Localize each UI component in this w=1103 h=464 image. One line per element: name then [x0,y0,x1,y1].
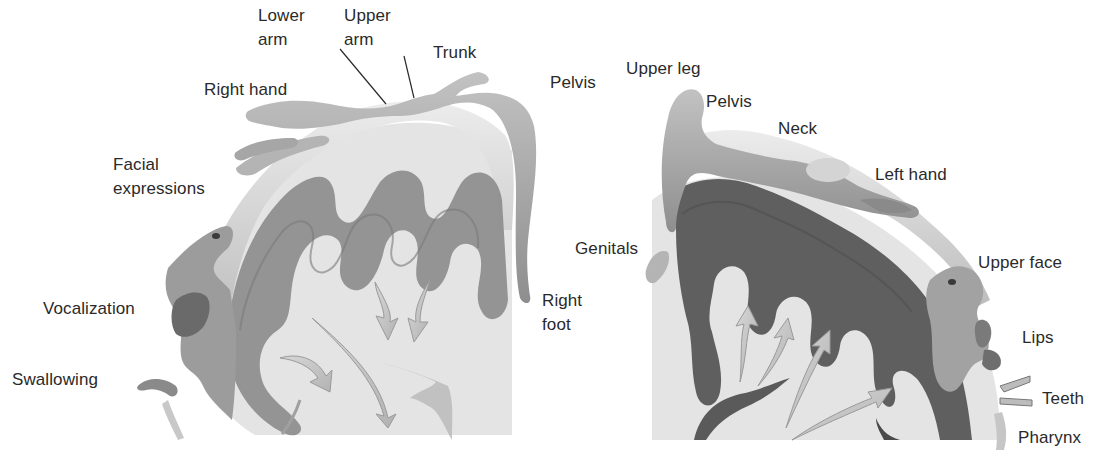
upper-arm-pointer [404,56,414,98]
label-upper-leg: Upper leg [626,59,701,79]
homunculus-artwork [0,0,1103,464]
label-upper-arm-line1: Upper [344,4,391,28]
label-left-hand: Left hand [875,165,947,185]
label-facial-expressions-line2: expressions [113,177,205,201]
label-pharynx: Pharynx [1018,428,1081,448]
homunculus-figure: Lower arm Upper arm Trunk Pelvis Right h… [0,0,1103,464]
label-facial-expressions: Facial expressions [113,153,205,201]
label-lower-arm-line2: arm [258,28,305,52]
right-sensory-cortex [646,89,1032,450]
label-lips: Lips [1022,328,1054,348]
label-right-foot-line2: foot [542,313,582,337]
label-genitals: Genitals [575,239,638,259]
label-right-hand: Right hand [204,80,287,100]
label-pelvis-left: Pelvis [550,73,596,93]
label-lower-arm-line1: Lower [258,4,305,28]
label-upper-arm: Upper arm [344,4,391,52]
label-trunk: Trunk [433,43,476,63]
label-lower-arm: Lower arm [258,4,305,52]
label-right-foot-line1: Right [542,289,582,313]
label-pelvis-right: Pelvis [706,92,752,112]
label-swallowing: Swallowing [12,370,98,390]
label-right-foot: Right foot [542,289,582,337]
left-motor-cortex [137,49,536,440]
lower-arm-pointer [340,49,386,104]
label-facial-expressions-line1: Facial [113,153,205,177]
label-upper-arm-line2: arm [344,28,391,52]
label-upper-face: Upper face [978,253,1062,273]
label-vocalization: Vocalization [43,299,135,319]
label-teeth: Teeth [1042,389,1084,409]
label-neck: Neck [778,119,817,139]
